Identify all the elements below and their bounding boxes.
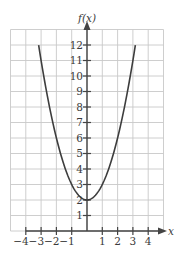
y-axis-label: f(x) <box>77 12 96 24</box>
parabola-chart: −4−3−2−11234 123456789101112 f(x) x <box>0 0 182 256</box>
y-tick-label: 1 <box>76 209 83 221</box>
x-tick-label: −4 <box>13 235 29 247</box>
x-tick-label: 2 <box>114 235 121 247</box>
y-tick-label: 10 <box>70 70 83 82</box>
y-tick-label: 5 <box>76 147 83 159</box>
y-tick-label: 3 <box>76 178 83 190</box>
y-tick-label: 12 <box>70 39 83 51</box>
x-axis-arrow-icon <box>158 228 167 235</box>
x-tick-labels: −4−3−2−11234 <box>13 235 152 247</box>
x-tick-label: 3 <box>130 235 137 247</box>
x-tick-label: 1 <box>99 235 106 247</box>
x-axis-label: x <box>168 225 174 237</box>
x-tick-label: −3 <box>29 235 44 247</box>
x-tick-label: −1 <box>59 235 74 247</box>
y-tick-label: 9 <box>76 85 83 97</box>
y-tick-label: 11 <box>70 54 83 66</box>
y-tick-label: 4 <box>76 163 83 175</box>
x-tick-label: 4 <box>145 235 152 247</box>
y-tick-label: 8 <box>76 101 83 113</box>
y-tick-label: 6 <box>76 132 83 144</box>
x-tick-label: −2 <box>44 235 59 247</box>
y-tick-label: 7 <box>76 116 83 128</box>
